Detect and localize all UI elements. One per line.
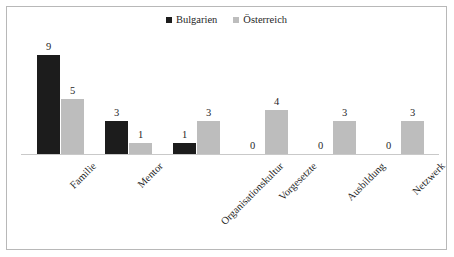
- bar-rect: [197, 121, 220, 154]
- chart-legend: Bulgarien Österreich: [7, 15, 446, 26]
- bar-value-label: 3: [114, 108, 119, 119]
- bar-group: 95: [30, 35, 92, 154]
- bar-rect: [265, 110, 288, 154]
- bar-osterreich[interactable]: 4: [265, 35, 288, 154]
- bar-osterreich[interactable]: 1: [129, 35, 152, 154]
- chart-frame: Bulgarien Österreich 953113040303 Famili…: [6, 6, 447, 250]
- bar-group: 03: [370, 35, 432, 154]
- bar-rect: [61, 99, 84, 154]
- bar-rect: [37, 55, 60, 154]
- bar-osterreich[interactable]: 3: [401, 35, 424, 154]
- bar-value-label: 1: [182, 130, 187, 141]
- category-label: Netzwerk: [411, 161, 447, 197]
- bar-group: 13: [166, 35, 228, 154]
- bar-bulgarien[interactable]: 0: [241, 35, 264, 154]
- bar-bulgarien[interactable]: 1: [173, 35, 196, 154]
- category-label: Ausbildung: [345, 161, 387, 203]
- bar-osterreich[interactable]: 5: [61, 35, 84, 154]
- bar-rect: [105, 121, 128, 154]
- bar-rect: [401, 121, 424, 154]
- category-label: Familie: [68, 161, 98, 191]
- category-axis-labels: FamilieMentorOrganisationskulturVorgeset…: [21, 157, 433, 217]
- bar-value-label: 9: [46, 42, 51, 53]
- legend-item-osterreich[interactable]: Österreich: [233, 15, 287, 26]
- bar-value-label: 0: [250, 141, 255, 152]
- bar-value-label: 3: [342, 108, 347, 119]
- plot-area: 953113040303: [21, 35, 433, 154]
- bar-osterreich[interactable]: 3: [333, 35, 356, 154]
- bar-value-label: 3: [206, 108, 211, 119]
- bar-group: 31: [98, 35, 160, 154]
- bar-group: 04: [234, 35, 296, 154]
- legend-label-bulgarien: Bulgarien: [176, 15, 217, 26]
- bar-value-label: 0: [318, 141, 323, 152]
- bar-osterreich[interactable]: 3: [197, 35, 220, 154]
- bar-rect: [129, 143, 152, 154]
- bar-value-label: 4: [274, 97, 279, 108]
- bar-value-label: 0: [386, 141, 391, 152]
- bar-value-label: 5: [70, 86, 75, 97]
- bar-rect: [173, 143, 196, 154]
- bar-bulgarien[interactable]: 3: [105, 35, 128, 154]
- legend-label-osterreich: Österreich: [243, 15, 287, 26]
- bar-rect: [333, 121, 356, 154]
- x-axis-line: [21, 154, 439, 155]
- bar-group: 03: [302, 35, 364, 154]
- category-label: Mentor: [136, 161, 165, 190]
- legend-item-bulgarien[interactable]: Bulgarien: [166, 15, 217, 26]
- bar-bulgarien[interactable]: 9: [37, 35, 60, 154]
- legend-swatch-icon-osterreich: [233, 17, 239, 23]
- bar-bulgarien[interactable]: 0: [309, 35, 332, 154]
- bar-value-label: 1: [138, 130, 143, 141]
- legend-swatch-icon-bulgarien: [166, 17, 172, 23]
- bar-value-label: 3: [410, 108, 415, 119]
- bar-bulgarien[interactable]: 0: [377, 35, 400, 154]
